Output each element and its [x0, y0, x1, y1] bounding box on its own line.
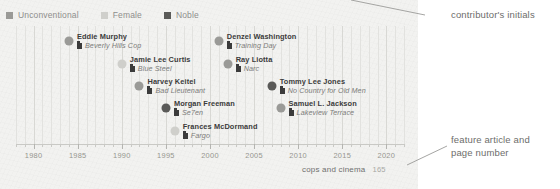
x-axis-tick-minor	[25, 144, 26, 147]
data-point[interactable]	[170, 127, 179, 136]
x-axis-tick-minor	[69, 144, 70, 147]
x-axis-tick-minor	[148, 144, 149, 147]
data-point-film-row: Beverly Hills Cop	[77, 41, 141, 50]
x-axis-tick-minor	[369, 144, 370, 147]
x-axis-tick-minor	[157, 144, 158, 147]
data-point-film-title: Narc	[244, 64, 260, 73]
data-point[interactable]	[64, 37, 73, 46]
data-point-name: Morgan Freeman	[174, 99, 235, 108]
x-axis-tick-label: 2020	[378, 151, 396, 160]
legend-item-unconventional[interactable]: Unconventional	[6, 10, 79, 20]
x-axis-tick-minor	[95, 144, 96, 147]
x-axis-tick-minor	[228, 144, 229, 147]
data-point[interactable]	[117, 60, 126, 69]
x-axis-tick-minor	[60, 144, 61, 147]
x-axis-tick-label: 1995	[157, 151, 175, 160]
data-point-film-row: Bad Lieutenant	[147, 86, 205, 95]
screenshot-root: UnconventionalFemaleNoble Eddie MurphyBe…	[0, 0, 560, 189]
data-point[interactable]	[135, 82, 144, 91]
x-axis-tick-minor	[87, 144, 88, 147]
legend-item-label: Female	[113, 10, 142, 20]
data-point[interactable]	[161, 104, 170, 113]
data-point-film-title: Blue Steel	[138, 64, 172, 73]
data-point[interactable]	[267, 82, 276, 91]
legend-item-female[interactable]: Female	[101, 10, 142, 20]
x-axis-tick-label: 1985	[69, 151, 87, 160]
annotation-contributor-initials: contributor's initials	[451, 8, 535, 21]
x-axis-tick-minor	[184, 144, 185, 147]
data-point-film-title: No Country for Old Men	[288, 86, 366, 95]
chart-legend: UnconventionalFemaleNoble	[6, 8, 221, 22]
gridline	[378, 26, 379, 144]
data-point[interactable]	[276, 104, 285, 113]
film-icon	[289, 110, 294, 116]
data-point-film-title: Training Day	[235, 41, 276, 50]
legend-item-label: Noble	[176, 10, 199, 20]
gridline	[34, 26, 35, 144]
legend-swatch-unconventional	[6, 12, 13, 19]
x-axis-tick-major	[78, 144, 79, 149]
data-point-film-title: Fargo	[191, 131, 210, 140]
x-axis-tick-minor	[316, 144, 317, 147]
film-icon	[77, 43, 82, 49]
x-axis-tick-minor	[219, 144, 220, 147]
x-axis-tick-minor	[307, 144, 308, 147]
data-point-film-title: Se7en	[182, 108, 203, 117]
figure-footer: cops and cinema 165	[302, 165, 386, 174]
x-axis-tick-minor	[42, 144, 43, 147]
x-axis-tick-minor	[245, 144, 246, 147]
data-point-name: Tommy Lee Jones	[280, 77, 366, 86]
x-axis-tick-major	[210, 144, 211, 149]
x-axis-tick-minor	[281, 144, 282, 147]
data-point-film-title: Bad Lieutenant	[155, 86, 205, 95]
x-axis-tick-major	[298, 144, 299, 149]
data-point-film-row: Training Day	[227, 41, 297, 50]
x-axis-tick-major	[254, 144, 255, 149]
x-axis-tick-major	[386, 144, 387, 149]
data-point-name: Denzel Washington	[227, 32, 297, 41]
data-point-film-row: Lakeview Terrace	[289, 108, 357, 117]
gridline	[51, 26, 52, 144]
data-point-label: Samuel L. JacksonLakeview Terrace	[289, 99, 357, 117]
data-point-name: Harvey Keitel	[147, 77, 205, 86]
footer-page-number: 165	[372, 165, 385, 174]
x-axis-tick-minor	[139, 144, 140, 147]
film-icon	[183, 133, 188, 139]
chart-panel: UnconventionalFemaleNoble Eddie MurphyBe…	[0, 0, 418, 189]
gridline	[395, 26, 396, 144]
x-axis-tick-label: 2005	[245, 151, 263, 160]
x-axis-tick-minor	[113, 144, 114, 147]
x-axis-tick-minor	[351, 144, 352, 147]
data-point-film-title: Beverly Hills Cop	[85, 41, 141, 50]
annotation-feature-article: feature article andpage number	[451, 133, 530, 159]
legend-swatch-noble	[164, 12, 171, 19]
legend-item-noble[interactable]: Noble	[164, 10, 199, 20]
x-axis-tick-minor	[263, 144, 264, 147]
gridline	[60, 26, 61, 144]
data-point-name: Frances McDormand	[183, 122, 258, 131]
data-point-name: Samuel L. Jackson	[289, 99, 357, 108]
x-axis-tick-minor	[404, 144, 405, 147]
x-axis-tick-minor	[51, 144, 52, 147]
data-point-label: Frances McDormandFargo	[183, 122, 258, 140]
x-axis-tick-minor	[131, 144, 132, 147]
x-axis-tick-minor	[289, 144, 290, 147]
x-axis-tick-major	[34, 144, 35, 149]
annotation-line: feature article and	[451, 133, 530, 146]
x-axis-tick-minor	[395, 144, 396, 147]
x-axis-tick-label: 1980	[25, 151, 43, 160]
data-point[interactable]	[223, 60, 232, 69]
gridline	[42, 26, 43, 144]
data-point-label: Harvey KeitelBad Lieutenant	[147, 77, 205, 95]
plot-area: Eddie MurphyBeverly Hills CopDenzel Wash…	[16, 26, 404, 144]
data-point-label: Ray LiottaNarc	[236, 55, 273, 73]
data-point-label: Morgan FreemanSe7en	[174, 99, 235, 117]
legend-swatch-female	[101, 12, 108, 19]
x-axis-tick-label: 2015	[333, 151, 351, 160]
data-point[interactable]	[214, 37, 223, 46]
x-axis-tick-minor	[325, 144, 326, 147]
film-icon	[174, 110, 179, 116]
x-axis-tick-minor	[333, 144, 334, 147]
data-point-name: Eddie Murphy	[77, 32, 141, 41]
gridline	[369, 26, 370, 144]
